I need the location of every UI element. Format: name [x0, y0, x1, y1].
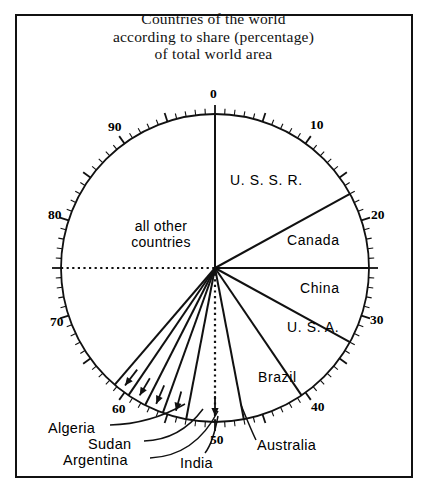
- callout-label-argentina: Argentina: [63, 452, 128, 468]
- callout-label-india: India: [180, 455, 213, 471]
- callout-label-australia: Australia: [257, 437, 316, 453]
- title-line-1: Countries of the world: [0, 10, 427, 28]
- sector-label-all-other-countries: all other countries: [113, 218, 209, 250]
- page-title: Countries of the world according to shar…: [0, 10, 427, 63]
- tick-label-60: 60: [112, 401, 126, 417]
- all-other-line-1: all other: [113, 218, 209, 234]
- sector-label-usa: U. S. A.: [287, 319, 339, 335]
- sector-label-ussr: U. S. S. R.: [230, 172, 303, 188]
- sector-label-china: China: [300, 280, 340, 296]
- tick-label-30: 30: [370, 312, 384, 328]
- tick-label-20: 20: [371, 207, 385, 223]
- all-other-line-2: countries: [113, 234, 209, 250]
- tick-label-0: 0: [210, 86, 217, 102]
- tick-label-70: 70: [50, 314, 64, 330]
- chart-frame: [15, 14, 413, 478]
- tick-label-50: 50: [210, 432, 224, 448]
- tick-label-40: 40: [311, 399, 325, 415]
- tick-label-10: 10: [310, 117, 324, 133]
- callout-label-algeria: Algeria: [48, 420, 95, 436]
- title-line-2: according to share (percentage): [0, 28, 427, 46]
- callout-label-sudan: Sudan: [88, 436, 131, 452]
- title-line-3: of total world area: [0, 45, 427, 63]
- sector-label-canada: Canada: [287, 232, 340, 248]
- sector-label-brazil: Brazil: [258, 369, 297, 385]
- tick-label-90: 90: [108, 119, 122, 135]
- tick-label-80: 80: [48, 207, 62, 223]
